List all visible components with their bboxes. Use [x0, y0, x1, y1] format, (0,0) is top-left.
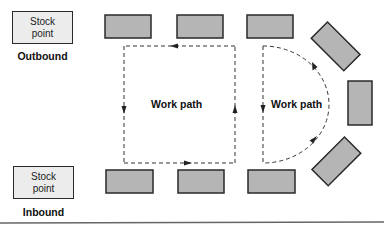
workstation-arc-middle	[348, 81, 372, 125]
arrow-left-icon	[170, 44, 178, 49]
workstation-bottom-3	[248, 170, 295, 193]
workstation-arc-top	[311, 22, 360, 71]
workstation-arc-bottom	[312, 137, 361, 186]
stock-point-line2: point	[30, 28, 55, 40]
arrow-down-icon	[261, 105, 266, 113]
arrow-down-icon	[122, 106, 127, 114]
semicircular-work-path-label: Work path	[271, 98, 322, 110]
outbound-label: Outbound	[12, 50, 73, 62]
workstation-top-3	[247, 15, 293, 38]
workstation-top-1	[105, 15, 151, 38]
bottom-rule	[0, 222, 384, 223]
workstation-bottom-1	[106, 170, 153, 193]
inbound-label: Inbound	[13, 206, 74, 218]
workstation-bottom-2	[178, 170, 224, 193]
stock-point-line1: Stock	[30, 16, 55, 28]
arrow-right-icon	[184, 161, 192, 166]
stock-point-line2: point	[31, 183, 56, 195]
inbound-stock-point: Stock point	[13, 166, 74, 199]
arrow-up-icon	[312, 62, 318, 71]
stock-point-line1: Stock	[31, 171, 56, 183]
workstation-top-2	[177, 15, 223, 38]
rectangular-work-path-label: Work path	[151, 98, 202, 110]
arrow-up-icon	[233, 105, 238, 113]
outbound-stock-point: Stock point	[12, 11, 73, 44]
